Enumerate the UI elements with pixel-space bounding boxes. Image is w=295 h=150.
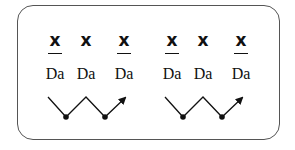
contour-group-1 — [48, 97, 125, 120]
contour-group-2 — [165, 97, 242, 120]
contour-lines — [0, 0, 295, 150]
